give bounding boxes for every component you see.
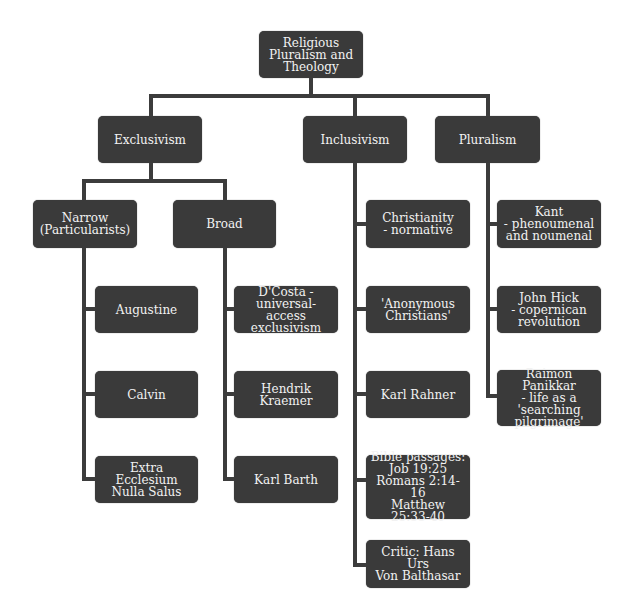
connector-pluralism-spine <box>486 163 490 398</box>
connector-exclusivism-stem <box>149 94 153 116</box>
node-extra-ecclesium: Extra Ecclesium Nulla Salus <box>95 456 198 503</box>
node-karl-rahner: Karl Rahner <box>366 371 470 418</box>
connector-extra <box>82 477 96 481</box>
connector-level1-bar <box>149 94 490 98</box>
node-calvin: Calvin <box>95 371 198 418</box>
node-karl-barth: Karl Barth <box>234 456 338 503</box>
connector-exclusivism-bar <box>82 179 227 183</box>
node-exclusivism: Exclusivism <box>98 116 202 163</box>
node-dcosta: D'Costa - universal-access exclusivism <box>234 286 338 333</box>
connector-broad-stem <box>223 179 227 200</box>
node-kant: Kant - phenoumenal and noumenal <box>497 200 601 248</box>
connector-calvin <box>82 392 96 396</box>
node-critic-balthasar: Critic: Hans Urs Von Balthasar <box>366 540 470 588</box>
node-augustine: Augustine <box>95 286 198 333</box>
connector-inclusivism-stem <box>353 94 357 116</box>
connector-pluralism-stem <box>486 94 490 116</box>
node-narrow: Narrow (Particularists) <box>33 200 137 248</box>
node-john-hick: John Hick - copernican revolution <box>497 286 601 333</box>
node-bible-passages: Bible passages: Job 19:25 Romans 2:14-16… <box>366 455 470 519</box>
node-broad: Broad <box>173 200 276 248</box>
connector-broad-spine <box>223 248 227 481</box>
node-hendrik-kraemer: Hendrik Kraemer <box>234 371 338 418</box>
connector-augustine <box>82 307 96 311</box>
node-pluralism: Pluralism <box>435 116 540 163</box>
connector-narrow-spine <box>82 248 86 481</box>
node-inclusivism: Inclusivism <box>303 116 407 163</box>
node-christianity-normative: Christianity - normative <box>366 200 470 248</box>
node-root: Religious Pluralism and Theology <box>259 31 363 78</box>
node-raimon-panikkar: Raimon Panikkar - life as a 'searching p… <box>497 370 601 426</box>
node-anonymous-christians: 'Anonymous Christians' <box>366 286 470 333</box>
connector-narrow-stem <box>82 179 86 200</box>
